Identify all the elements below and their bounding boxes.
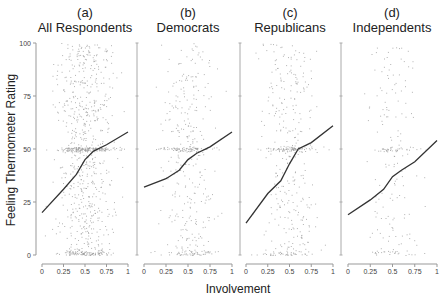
x-tick-label: 0 bbox=[40, 268, 44, 275]
x-tick-label: 1 bbox=[126, 268, 130, 275]
panel-title: Independents bbox=[353, 20, 432, 35]
x-tick-label: 0.75 bbox=[304, 268, 318, 275]
panel-title: All Respondents bbox=[38, 20, 133, 35]
panel-3: (c)Republicans00.250.50.751 bbox=[244, 5, 342, 275]
x-tick-label: 0.5 bbox=[80, 268, 90, 275]
panel-divider bbox=[136, 43, 139, 255]
panel-divider bbox=[239, 43, 242, 255]
panel-title: Republicans bbox=[254, 20, 326, 35]
panel-letter: (a) bbox=[77, 5, 93, 20]
y-axis-label: Feeling Thermometer Rating bbox=[4, 74, 18, 227]
x-tick-label: 1 bbox=[230, 268, 234, 275]
panel-4: (d)Independents00.250.50.751 bbox=[346, 5, 439, 275]
scatter-points bbox=[364, 47, 426, 256]
panel-title: Democrats bbox=[157, 20, 220, 35]
y-tick-label: 100 bbox=[19, 40, 31, 47]
x-tick-label: 0.25 bbox=[261, 268, 275, 275]
panel-letter: (c) bbox=[282, 5, 297, 20]
x-axis-label: Involvement bbox=[206, 282, 271, 296]
fit-line bbox=[42, 132, 128, 213]
y-tick-label: 0 bbox=[27, 252, 31, 259]
x-axis: 00.250.50.751 bbox=[244, 264, 335, 275]
x-tick-label: 0.25 bbox=[159, 268, 173, 275]
x-tick-label: 0 bbox=[346, 268, 350, 275]
x-tick-label: 0 bbox=[244, 268, 248, 275]
y-tick-label: 25 bbox=[23, 199, 31, 206]
y-axis: 0255075100 bbox=[19, 40, 36, 259]
panel-1: (a)All Respondents00.250.50.751 bbox=[38, 5, 139, 275]
fit-line bbox=[144, 132, 232, 187]
y-tick-label: 50 bbox=[23, 146, 31, 153]
x-tick-label: 0.25 bbox=[57, 268, 71, 275]
x-tick-label: 0.75 bbox=[408, 268, 422, 275]
y-tick-label: 75 bbox=[23, 93, 31, 100]
x-tick-label: 1 bbox=[331, 268, 335, 275]
panel-letter: (d) bbox=[384, 5, 400, 20]
x-tick-label: 0.5 bbox=[388, 268, 398, 275]
x-axis: 00.250.50.751 bbox=[346, 264, 439, 275]
panel-letter: (b) bbox=[180, 5, 196, 20]
fit-line bbox=[348, 141, 437, 215]
x-tick-label: 0.5 bbox=[285, 268, 295, 275]
fit-line bbox=[246, 126, 333, 224]
x-tick-label: 1 bbox=[435, 268, 439, 275]
panel-divider bbox=[340, 43, 343, 255]
x-tick-label: 0 bbox=[142, 268, 146, 275]
x-axis: 00.250.50.751 bbox=[142, 264, 234, 275]
x-tick-label: 0.75 bbox=[203, 268, 217, 275]
scatter-points bbox=[151, 43, 227, 256]
scatter-points bbox=[45, 43, 125, 256]
x-axis: 00.250.50.751 bbox=[40, 264, 130, 275]
scatter-points bbox=[251, 44, 329, 256]
x-tick-label: 0.75 bbox=[100, 268, 114, 275]
chart-figure: Feeling Thermometer Rating 0255075100 (a… bbox=[0, 0, 444, 300]
x-tick-label: 0.5 bbox=[183, 268, 193, 275]
x-tick-label: 0.25 bbox=[363, 268, 377, 275]
panel-2: (b)Democrats00.250.50.751 bbox=[142, 5, 241, 275]
